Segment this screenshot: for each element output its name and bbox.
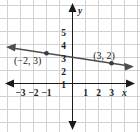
x-tick-neg1: −1 — [41, 88, 51, 98]
x-tick-2: 2 — [96, 88, 101, 98]
y-tick-2: 2 — [61, 67, 66, 77]
x-tick-neg3: −3 — [15, 88, 25, 98]
annotation-point-left: (−2, 3) — [14, 55, 41, 67]
coordinate-plane-figure: 5 4 3 2 1 −3 −2 −1 1 2 3 y x (−2, 3) (3,… — [0, 0, 140, 132]
data-point-left — [44, 51, 49, 56]
coordinate-plane-svg: 5 4 3 2 1 −3 −2 −1 1 2 3 y x (−2, 3) (3,… — [0, 0, 140, 132]
x-tick-1: 1 — [83, 88, 88, 98]
y-tick-3: 3 — [61, 54, 66, 64]
y-tick-1: 1 — [61, 80, 66, 90]
y-tick-5: 5 — [61, 28, 66, 38]
data-point-right — [109, 61, 114, 66]
annotation-point-right: (3, 2) — [93, 50, 115, 62]
y-tick-4: 4 — [61, 41, 66, 51]
x-axis-label: x — [121, 88, 127, 98]
x-tick-3: 3 — [109, 88, 114, 98]
y-axis-label: y — [77, 6, 83, 16]
x-tick-neg2: −2 — [28, 88, 38, 98]
